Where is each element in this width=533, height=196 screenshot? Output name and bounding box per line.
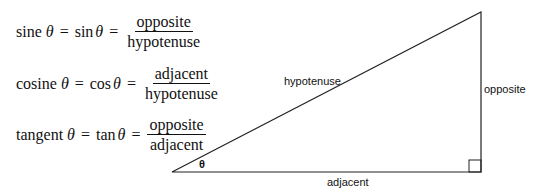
- angle-theta-label: θ: [199, 158, 205, 170]
- opposite-label: opposite: [484, 83, 526, 95]
- right-angle-marker: [469, 160, 481, 172]
- adjacent-label: adjacent: [327, 176, 369, 188]
- triangle-shape: [172, 12, 481, 172]
- hypotenuse-label: hypotenuse: [284, 75, 341, 87]
- right-triangle-diagram: hypotenuse opposite adjacent θ: [0, 0, 533, 196]
